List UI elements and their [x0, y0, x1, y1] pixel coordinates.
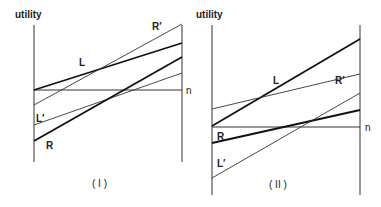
n-label: n — [365, 122, 371, 133]
n-label: n — [186, 85, 192, 96]
line-R-prime — [34, 24, 182, 105]
panel-title: ( I ) — [92, 178, 107, 189]
label-L: L — [79, 57, 85, 68]
panel-2: utility n L R′ R L′ ( II ) — [196, 9, 371, 195]
label-R-prime: R′ — [335, 75, 345, 86]
label-R-prime: R′ — [152, 21, 162, 32]
line-L-prime — [212, 93, 360, 178]
line-L — [34, 43, 182, 90]
label-L: L — [273, 75, 279, 86]
y-axis-label: utility — [15, 9, 42, 20]
label-L-prime: L′ — [217, 158, 226, 169]
panel-title: ( II ) — [269, 179, 287, 190]
label-R: R — [46, 140, 54, 151]
diagram-canvas: utility n L R′ L′ R ( I ) utility n L R′… — [0, 0, 381, 207]
line-R — [34, 57, 182, 141]
label-R: R — [217, 131, 225, 142]
panel-1: utility n L R′ L′ R ( I ) — [15, 9, 192, 189]
label-L-prime: L′ — [36, 113, 45, 124]
y-axis-label: utility — [196, 9, 223, 20]
